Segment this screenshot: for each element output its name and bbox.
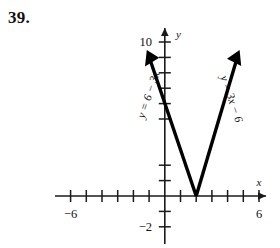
y-tick-label-neg2: −2	[139, 220, 152, 234]
problem-number: 39.	[8, 8, 30, 28]
graph-figure: 39. x −6 6	[0, 0, 280, 248]
y-tick-label-10: 10	[140, 35, 153, 49]
y-axis-arrow-icon	[161, 28, 169, 36]
x-axis: x −6 6	[55, 176, 266, 221]
x-tick-label-neg6: −6	[64, 207, 77, 221]
equation-label-left: y = 6 − 3x	[134, 69, 163, 121]
coordinate-plane-svg: x −6 6 y 10 −2	[0, 0, 280, 248]
x-tick-label-6: 6	[256, 207, 262, 221]
x-axis-label: x	[256, 176, 262, 188]
line-y-equals-3x-minus-6: y = 3x − 6	[196, 50, 245, 196]
y-axis-label: y	[175, 28, 181, 40]
